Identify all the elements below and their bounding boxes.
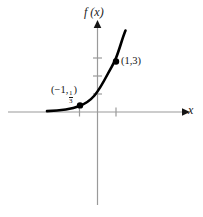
y-axis-label: f (x) bbox=[84, 6, 104, 18]
exponential-function-graph: f (x) x (1,3) (−1,13) bbox=[0, 0, 203, 217]
graph-canvas bbox=[0, 0, 203, 217]
data-point-one-three bbox=[113, 58, 119, 64]
point-label-minus-one-third: (−1,13) bbox=[51, 85, 77, 105]
fraction-denominator: 3 bbox=[69, 98, 74, 104]
point-label-prefix: (−1, bbox=[51, 84, 68, 95]
point-label-suffix: ) bbox=[73, 84, 77, 95]
y-axis-arrowhead bbox=[94, 20, 102, 28]
x-axis-label: x bbox=[188, 104, 193, 116]
point-label-one-three: (1,3) bbox=[121, 56, 141, 67]
data-point-minus-one-third bbox=[77, 102, 83, 108]
